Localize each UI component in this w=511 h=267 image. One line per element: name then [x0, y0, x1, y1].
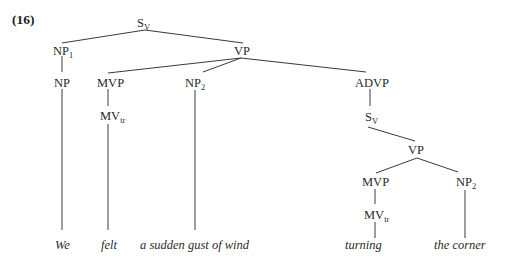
word-we: We [55, 238, 70, 252]
edge-vp2-mvp [376, 158, 417, 173]
node-root-sv: SV [137, 16, 151, 32]
node-np2: NP2 [185, 76, 205, 92]
word-the-corner: the corner [434, 238, 486, 252]
edge-sv-vp2 [368, 127, 415, 141]
node-sv: SV [365, 110, 379, 126]
tree-nodes: SV NP1 VP NP MVP MVtr NP2 ADVP SV VP MVP… [53, 16, 476, 224]
node-mvp: MVP [97, 76, 124, 90]
node-vp: VP [234, 44, 250, 58]
node-mvtr2: MVtr [364, 208, 390, 224]
node-np: NP [54, 76, 70, 90]
node-advp: ADVP [355, 76, 389, 90]
node-mvp2: MVP [362, 175, 389, 189]
word-felt: felt [101, 238, 117, 252]
node-np1: NP1 [53, 44, 73, 60]
edge-vp-advp [241, 58, 366, 72]
node-mvtr: MVtr [100, 109, 126, 125]
word-turning: turning [345, 238, 382, 252]
example-number: (16) [12, 12, 35, 27]
edge-sv-np1 [62, 30, 145, 43]
tree-edges [62, 30, 465, 238]
node-vp2: VP [408, 143, 424, 157]
syntax-tree-diagram: (16) SV NP1 VP NP MVP MVtr NP2 ADVP SV V… [0, 0, 511, 267]
terminal-words: We felt a sudden gust of wind turning th… [55, 238, 486, 252]
word-gust: a sudden gust of wind [140, 238, 250, 252]
edge-sv-vp [145, 30, 243, 43]
edge-vp2-np2 [417, 158, 458, 172]
node-np2b: NP2 [456, 175, 476, 191]
